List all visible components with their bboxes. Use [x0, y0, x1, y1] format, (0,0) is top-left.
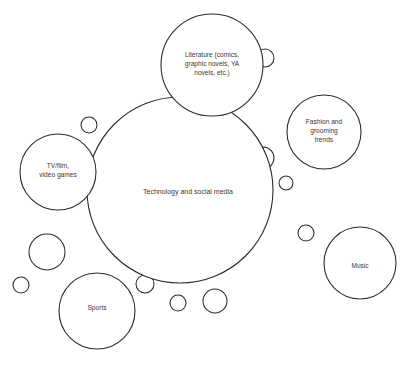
unlabeled-bubble-13[interactable]	[170, 295, 186, 311]
bubble-label-sports: Sports	[87, 304, 107, 312]
bubble-label-technology-and-social-media: Technology and social media	[143, 188, 233, 196]
bubble-diagram-svg: Technology and social mediaLiterature (c…	[0, 0, 411, 365]
unlabeled-bubble-12[interactable]	[13, 277, 29, 293]
unlabeled-bubble-2[interactable]	[81, 117, 97, 133]
labeled-bubble-literature[interactable]: Literature (comics,graphic novels, YAnov…	[161, 14, 263, 116]
labeled-bubble-music[interactable]: Music	[324, 227, 396, 299]
bubble-label-music: Music	[351, 262, 369, 269]
unlabeled-bubble-8[interactable]	[298, 225, 314, 241]
unlabeled-bubble-9[interactable]	[29, 234, 65, 270]
unlabeled-bubble-14[interactable]	[203, 289, 227, 313]
bubble-outline-sports[interactable]	[59, 273, 135, 349]
labeled-bubble-fashion-and-grooming-trends[interactable]: Fashion andgroomingtrends	[287, 95, 361, 169]
labeled-bubble-sports[interactable]: Sports	[59, 273, 135, 349]
unlabeled-bubble-6[interactable]	[279, 176, 293, 190]
bubble-diagram-canvas: Technology and social mediaLiterature (c…	[0, 0, 411, 365]
labeled-bubble-tv-film-video-games[interactable]: TV/film,video games	[20, 134, 96, 210]
labeled-bubble-technology-and-social-media[interactable]: Technology and social media	[87, 97, 273, 283]
